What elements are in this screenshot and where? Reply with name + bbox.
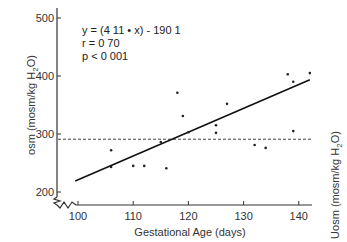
regression-line xyxy=(75,80,310,181)
data-point xyxy=(309,72,312,75)
y-axis-break xyxy=(54,197,60,205)
data-point xyxy=(165,167,168,170)
data-point xyxy=(110,149,113,152)
data-point xyxy=(215,124,218,127)
data-point xyxy=(215,132,218,135)
x-tick-label: 110 xyxy=(124,210,142,222)
annotation-equation: y = (4 11 • x) - 190 1 xyxy=(82,24,181,36)
data-point xyxy=(264,147,267,150)
y-axis-label-right: Uosm (mosm/kg H2O) xyxy=(329,131,344,239)
data-point xyxy=(286,73,289,76)
data-point xyxy=(110,166,113,169)
x-tick-label: 140 xyxy=(290,210,308,222)
y-tick-label: 200 xyxy=(36,186,54,198)
x-tick-label: 120 xyxy=(179,210,197,222)
x-tick-label: 130 xyxy=(234,210,252,222)
data-point xyxy=(176,92,179,95)
scatter-chart: 200300400500100110120130140 y = (4 11 • … xyxy=(0,0,347,242)
data-point xyxy=(226,103,229,106)
data-point xyxy=(143,165,146,168)
marks xyxy=(58,72,312,181)
annotation-p: p < 0 001 xyxy=(82,50,128,62)
x-tick-label: 100 xyxy=(69,210,87,222)
axes: 200300400500100110120130140 xyxy=(36,8,312,222)
x-axis-label: Gestational Age (days) xyxy=(134,226,245,238)
x-axis-break xyxy=(57,202,76,208)
y-tick-label: 300 xyxy=(36,128,54,140)
data-point xyxy=(292,130,295,133)
annotations: y = (4 11 • x) - 190 1 r = 0 70 p < 0 00… xyxy=(82,24,181,62)
data-point xyxy=(292,81,295,84)
annotation-r: r = 0 70 xyxy=(82,37,120,49)
data-point xyxy=(187,131,190,134)
data-point xyxy=(253,144,256,147)
y-tick-label: 500 xyxy=(36,12,54,24)
data-point xyxy=(160,141,163,144)
data-point xyxy=(132,165,135,168)
data-point xyxy=(182,115,185,118)
